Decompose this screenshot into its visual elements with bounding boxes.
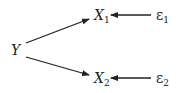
node-epsilon1: ε1 <box>156 8 169 25</box>
node-y-label: Y <box>11 42 20 58</box>
node-x1-label: X <box>94 7 104 23</box>
node-x2: X2 <box>94 71 110 88</box>
node-x1: X1 <box>94 8 110 25</box>
node-epsilon2: ε2 <box>156 71 169 88</box>
edge-y-to-x1 <box>26 19 89 43</box>
node-y: Y <box>11 43 20 57</box>
node-x1-subscript: 1 <box>104 15 110 25</box>
diagram-edges <box>0 0 179 93</box>
node-x2-subscript: 2 <box>104 78 110 88</box>
node-x2-label: X <box>94 70 104 86</box>
node-epsilon1-subscript: 1 <box>163 15 169 25</box>
node-epsilon2-subscript: 2 <box>163 78 169 88</box>
edge-y-to-x2 <box>26 57 89 75</box>
